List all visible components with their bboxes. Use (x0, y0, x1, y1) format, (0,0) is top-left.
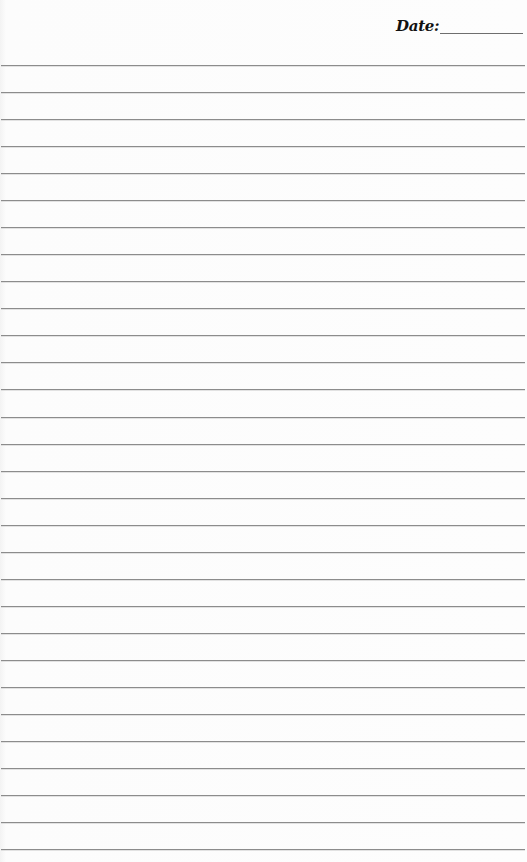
ruled-line (1, 254, 525, 255)
ruled-line (1, 119, 525, 120)
ruled-line (1, 200, 525, 201)
ruled-line (1, 633, 525, 634)
ruled-line (1, 768, 525, 769)
ruled-line (1, 281, 525, 282)
ruled-line (1, 741, 525, 742)
notepaper-page: Date: (0, 0, 527, 862)
ruled-line (1, 173, 525, 174)
ruled-line (1, 606, 525, 607)
ruled-line (1, 849, 525, 850)
ruled-line (1, 389, 525, 390)
ruled-line (1, 444, 525, 445)
ruled-line (1, 498, 525, 499)
ruled-line (1, 227, 525, 228)
ruled-line (1, 822, 525, 823)
ruled-lines (0, 0, 527, 862)
ruled-line (1, 362, 525, 363)
ruled-line (1, 146, 525, 147)
ruled-line (1, 525, 525, 526)
ruled-line (1, 92, 525, 93)
ruled-line (1, 335, 525, 336)
ruled-line (1, 714, 525, 715)
ruled-line (1, 65, 525, 66)
ruled-line (1, 471, 525, 472)
ruled-line (1, 660, 525, 661)
ruled-line (1, 417, 525, 418)
ruled-line (1, 687, 525, 688)
ruled-line (1, 308, 525, 309)
ruled-line (1, 552, 525, 553)
ruled-line (1, 795, 525, 796)
ruled-line (1, 579, 525, 580)
